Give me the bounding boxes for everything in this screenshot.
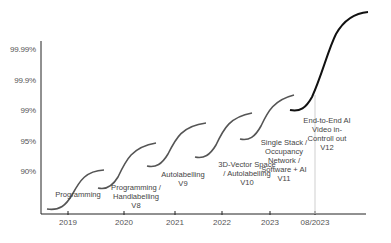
annotation-v9: Autolabelling V9 — [153, 170, 213, 188]
annotation-v12: End-to-End AI Video in- Controll out V12 — [296, 116, 358, 152]
x-tick-label: 08/2023 — [295, 218, 335, 227]
x-tick-label: 2021 — [155, 218, 195, 227]
curve-v11 — [240, 95, 294, 139]
curve-v10 — [195, 113, 252, 158]
y-tick-label: 99% — [0, 106, 36, 115]
y-tick-label: 95% — [0, 137, 36, 146]
x-tick-label: 2020 — [104, 218, 144, 227]
y-tick-label: 99.99% — [0, 45, 36, 54]
x-tick-label: 2019 — [48, 218, 88, 227]
y-tick-label: 90% — [0, 167, 36, 176]
x-tick-label: 2023 — [250, 218, 290, 227]
x-tick-label: 2022 — [202, 218, 242, 227]
y-tick-label: 99.9% — [0, 76, 36, 85]
curve-v12 — [290, 12, 368, 110]
annotation-programming: Programming — [48, 190, 108, 199]
curve-v9 — [147, 123, 206, 167]
chart: 99.99% 99.9% 99% 95% 90% 2019 2020 2021 … — [0, 0, 391, 243]
